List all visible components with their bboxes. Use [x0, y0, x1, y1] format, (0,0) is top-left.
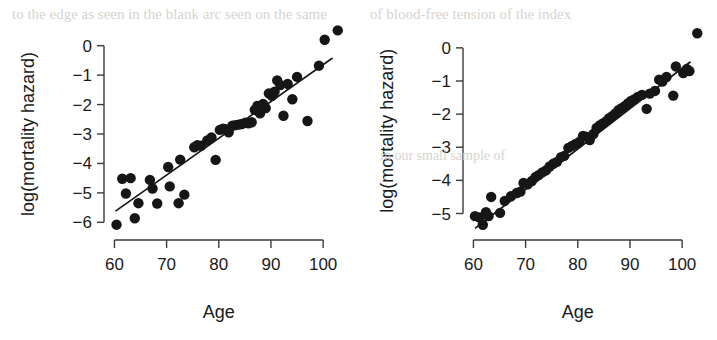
x-axis-tick-label: 100 [309, 255, 337, 274]
x-axis-tick-label: 70 [157, 255, 176, 274]
y-axis-tick-label: 0 [83, 37, 92, 56]
y-axis-tick-label: −1 [73, 66, 92, 85]
data-point [210, 155, 220, 165]
plot-content-right: 0−1−2−3−4−560708090100Agelog(mortality h… [377, 28, 702, 322]
x-axis-tick-label: 90 [620, 255, 639, 274]
x-axis-title: Age [203, 302, 235, 322]
x-axis-tick-label: 70 [516, 255, 535, 274]
data-point [495, 208, 505, 218]
plot-content-left: 0−1−2−3−4−5−660708090100Agelog(mortality… [18, 25, 343, 322]
data-point [261, 103, 271, 113]
y-axis-tick-label: 0 [442, 39, 451, 58]
x-axis-tick-label: 100 [668, 255, 696, 274]
y-axis-tick-label: −5 [432, 205, 451, 224]
chart-panel-left: 0−1−2−3−4−5−660708090100Agelog(mortality… [0, 0, 358, 340]
data-point [302, 116, 312, 126]
scatter-plot-right: 0−1−2−3−4−560708090100Agelog(mortality h… [359, 0, 717, 340]
y-axis-tick-label: −6 [73, 213, 92, 232]
data-point [147, 183, 157, 193]
data-point [292, 72, 302, 82]
data-point [206, 132, 216, 142]
data-point [175, 154, 185, 164]
y-axis-tick-label: −4 [432, 171, 451, 190]
data-point [287, 94, 297, 104]
x-axis-tick-label: 80 [568, 255, 587, 274]
scatter-plot-left: 0−1−2−3−4−5−660708090100Agelog(mortality… [0, 0, 358, 340]
data-point [319, 35, 329, 45]
data-point [692, 28, 702, 38]
x-axis-title: Age [562, 302, 594, 322]
data-point [173, 198, 183, 208]
y-axis-tick-label: −2 [73, 96, 92, 115]
data-point [483, 211, 493, 221]
data-point [121, 188, 131, 198]
data-point [661, 72, 671, 82]
y-axis-tick-label: −5 [73, 184, 92, 203]
x-axis-tick-label: 90 [261, 255, 280, 274]
data-point [650, 86, 660, 96]
data-point [641, 104, 651, 114]
figure-container: 0−1−2−3−4−5−660708090100Agelog(mortality… [0, 0, 717, 340]
y-axis-tick-label: −3 [432, 138, 451, 157]
data-point [179, 189, 189, 199]
y-axis-title: log(mortality hazard) [18, 52, 38, 216]
data-point [111, 219, 121, 229]
data-point [486, 192, 496, 202]
data-point [163, 162, 173, 172]
data-point [133, 198, 143, 208]
data-point [125, 173, 135, 183]
x-axis-tick-label: 60 [464, 255, 483, 274]
data-point [246, 117, 256, 127]
x-axis-tick-label: 60 [105, 255, 124, 274]
data-point [684, 66, 694, 76]
data-point [478, 220, 488, 230]
x-axis-tick-label: 80 [209, 255, 228, 274]
data-point [278, 111, 288, 121]
data-point [152, 198, 162, 208]
y-axis-tick-label: −1 [432, 72, 451, 91]
data-point [668, 90, 678, 100]
y-axis-tick-label: −2 [432, 105, 451, 124]
y-axis-tick-label: −4 [73, 154, 92, 173]
data-point [282, 79, 292, 89]
data-point [130, 213, 140, 223]
data-point [333, 25, 343, 35]
y-axis-title: log(mortality hazard) [377, 49, 397, 213]
y-axis-tick-label: −3 [73, 125, 92, 144]
chart-panel-right: 0−1−2−3−4−560708090100Agelog(mortality h… [359, 0, 717, 340]
data-point [165, 181, 175, 191]
data-point [314, 60, 324, 70]
